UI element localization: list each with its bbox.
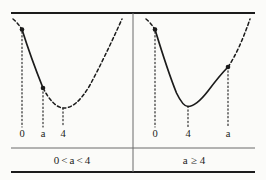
right-caption-upper: 4 (200, 154, 206, 166)
right-panel-graph (146, 19, 250, 127)
left-axis-label-four: 4 (60, 128, 65, 139)
parabola-case-figure: 0 a 4 0 4 a 0<a<4 a≥4 (0, 0, 266, 180)
left-caption-rel2: < (76, 154, 82, 166)
right-axis-label-zero: 0 (152, 128, 157, 139)
left-axis-label-zero: 0 (19, 128, 24, 139)
left-curve-dashed-segment (43, 19, 122, 108)
left-caption-rel1: < (61, 154, 67, 166)
right-endpoint-dot-a (226, 65, 231, 70)
right-axis-label-a: a (226, 128, 231, 139)
right-axis-label-four: 4 (185, 128, 190, 139)
left-panel-graph (13, 19, 122, 127)
left-panel-case-caption: 0<a<4 (11, 154, 133, 166)
left-caption-variable: a (70, 154, 75, 166)
left-endpoint-dot-zero (20, 27, 25, 32)
left-caption-upper: 4 (85, 154, 91, 166)
right-panel-case-caption: a≥4 (133, 154, 255, 166)
figure-canvas (0, 0, 266, 180)
left-curve-solid-segment (22, 30, 43, 89)
left-axis-label-a: a (41, 128, 46, 139)
right-curve-dashed-segment (228, 19, 250, 67)
left-endpoint-dot-a (41, 86, 46, 91)
right-curve-solid-segment (155, 30, 228, 107)
right-endpoint-dot-zero (153, 27, 158, 32)
left-caption-lower: 0 (54, 154, 60, 166)
right-caption-rel1: ≥ (191, 154, 197, 166)
right-caption-variable: a (183, 154, 188, 166)
